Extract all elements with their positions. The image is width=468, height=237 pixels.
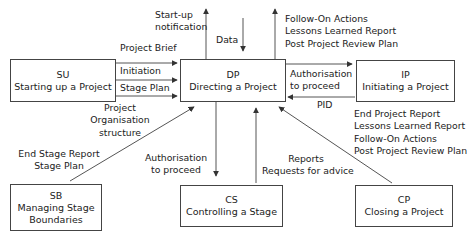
label-authorisation-cs: Authorisation to proceed <box>143 152 209 177</box>
label-pid: PID <box>317 99 333 111</box>
node-su: SU Starting up a Project <box>10 59 116 102</box>
label-cs-outputs: Reports Requests for advice <box>262 153 350 178</box>
label-project-brief: Project Brief <box>120 42 177 54</box>
node-dp-name: Directing a Project <box>189 81 277 93</box>
node-su-code: SU <box>57 69 70 81</box>
node-cp-name: Closing a Project <box>364 206 443 218</box>
label-cp-outputs: End Project Report Lessons Learned Repor… <box>354 108 467 158</box>
prince2-process-diagram: SU Starting up a Project DP Directing a … <box>0 0 468 237</box>
node-cp: CP Closing a Project <box>355 185 453 227</box>
node-ip-name: Initiating a Project <box>362 81 448 93</box>
node-cp-code: CP <box>398 194 410 206</box>
label-startup-notification: Start-up notification <box>155 9 207 34</box>
node-dp-code: DP <box>226 69 239 81</box>
node-sb-name-line1: Managing Stage <box>17 202 94 214</box>
node-cs-name: Controlling a Stage <box>186 206 277 218</box>
node-sb-code: SB <box>50 190 63 202</box>
node-sb-name-line2: Boundaries <box>29 214 83 226</box>
label-stage-plan: Stage Plan <box>120 82 170 94</box>
label-authorisation-ip: Authorisation to proceed <box>290 68 352 93</box>
node-ip-code: IP <box>401 69 410 81</box>
label-sb-outputs: End Stage Report Stage Plan <box>14 148 104 173</box>
node-ip: IP Initiating a Project <box>356 60 455 102</box>
label-data: Data <box>216 34 238 46</box>
node-sb: SB Managing Stage Boundaries <box>10 184 102 231</box>
node-cs-code: CS <box>225 194 238 206</box>
label-dp-top-outputs: Follow-On Actions Lessons Learned Report… <box>285 13 398 50</box>
label-initiation: Initiation <box>120 65 161 77</box>
node-cs: CS Controlling a Stage <box>180 185 283 227</box>
node-su-name: Starting up a Project <box>14 81 111 93</box>
node-dp: DP Directing a Project <box>180 59 286 102</box>
label-project-organisation: Project Organisation structure <box>90 102 150 139</box>
